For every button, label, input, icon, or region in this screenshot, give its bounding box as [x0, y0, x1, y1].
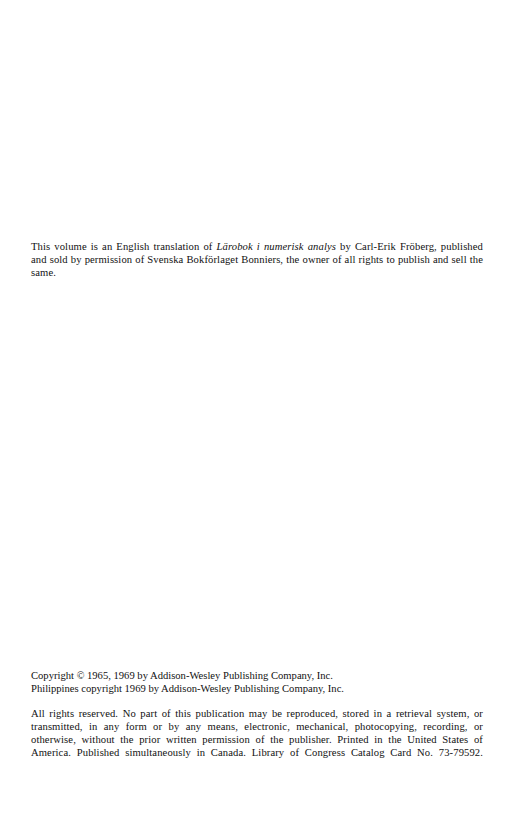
translation-note-paragraph: This volume is an English translation of…	[31, 240, 483, 293]
copyright-line-lead: Copyright	[31, 670, 77, 681]
philippines-copyright-line: Philippines copyright 1969 by Addison-We…	[31, 682, 483, 695]
translation-note-lead: This volume is an English translation of	[31, 241, 217, 252]
translation-note-block: This volume is an English translation of…	[31, 240, 483, 293]
copyright-line-holder: Copyright © 1965, 1969 by Addison-Wesley…	[31, 669, 483, 682]
copyright-block: Copyright © 1965, 1969 by Addison-Wesley…	[31, 669, 483, 773]
copyright-page: This volume is an English translation of…	[0, 0, 509, 839]
copyright-line-tail: 1965, 1969 by Addison-Wesley Publishing …	[84, 670, 333, 681]
all-rights-reserved-paragraph: All rights reserved. No part of this pub…	[31, 707, 483, 773]
original-book-title: Lärobok i numerisk analys	[217, 241, 336, 252]
